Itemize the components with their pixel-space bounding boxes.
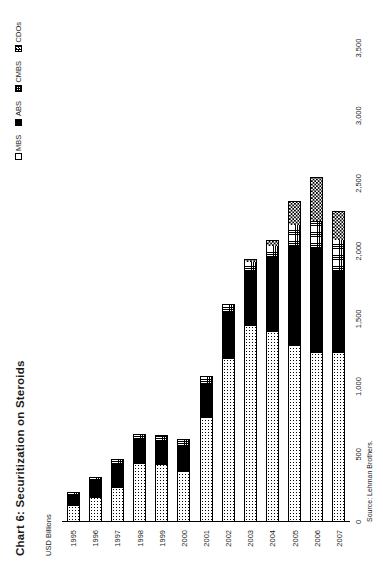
cmbs-swatch-icon <box>15 85 22 92</box>
bar-segment-cmbs[interactable] <box>266 246 279 257</box>
bar-segment-abs[interactable] <box>67 495 80 506</box>
bar-segment-mbs[interactable] <box>177 472 190 522</box>
bar-segment-cmbs[interactable] <box>310 221 323 248</box>
bar-segment-cdos[interactable] <box>266 240 279 246</box>
bar-segment-cdos[interactable] <box>244 259 257 262</box>
bar-segment-abs[interactable] <box>155 441 168 465</box>
bar-segment-cmbs[interactable] <box>155 435 168 441</box>
bar-segment-cmbs[interactable] <box>288 225 301 245</box>
bar-segment-abs[interactable] <box>222 312 235 359</box>
category-label: 2004 <box>268 530 277 547</box>
bar-segment-cmbs[interactable] <box>111 459 124 464</box>
value-tick-label: 0 <box>354 520 363 524</box>
value-tick-label: 3,000 <box>354 106 363 125</box>
bar-row[interactable] <box>177 439 190 522</box>
chart-figure: Chart 6: Securitization on Steroids USD … <box>0 0 383 584</box>
category-label: 2007 <box>334 530 343 547</box>
bar-segment-cmbs[interactable] <box>222 304 235 312</box>
bar-row[interactable] <box>332 211 345 522</box>
category-label: 2003 <box>246 530 255 547</box>
category-label: 1995 <box>69 530 78 547</box>
bar-segment-mbs[interactable] <box>200 418 213 522</box>
bar-segment-cmbs[interactable] <box>244 262 257 271</box>
category-label: 1996 <box>91 530 100 547</box>
category-label: 2000 <box>179 530 188 547</box>
bar-segment-mbs[interactable] <box>288 346 301 522</box>
bar-segment-mbs[interactable] <box>155 465 168 522</box>
bar-row[interactable] <box>111 459 124 522</box>
bar-row[interactable] <box>89 477 102 522</box>
bar-segment-mbs[interactable] <box>111 488 124 522</box>
bar-segment-cmbs[interactable] <box>332 240 345 271</box>
bar-segment-abs[interactable] <box>288 246 301 346</box>
category-label: 2005 <box>290 530 299 547</box>
legend-item-cdos[interactable]: CDOs <box>14 22 23 52</box>
bar-segment-abs[interactable] <box>177 446 190 472</box>
value-tick-label: 1,000 <box>354 377 363 396</box>
cdos-swatch-icon <box>15 45 22 52</box>
bar-segment-abs[interactable] <box>111 464 124 488</box>
bar-row[interactable] <box>67 492 80 522</box>
value-tick-label: 1,500 <box>354 309 363 328</box>
bar-row[interactable] <box>310 177 323 522</box>
bar-row[interactable] <box>244 259 257 522</box>
bar-segment-abs[interactable] <box>310 248 323 352</box>
bar-segment-mbs[interactable] <box>266 332 279 522</box>
category-label: 1998 <box>135 530 144 547</box>
legend-item-abs[interactable]: ABS <box>14 101 23 126</box>
bar-segment-cmbs[interactable] <box>67 492 80 494</box>
bar-segment-cdos[interactable] <box>332 211 345 241</box>
source-note: Source: Lehman Brothers. <box>366 440 373 522</box>
bar-segment-abs[interactable] <box>244 271 257 325</box>
bar-segment-abs[interactable] <box>200 384 213 418</box>
value-tick-label: 3,500 <box>354 39 363 58</box>
chart-legend: MBS ABS CMBS CDOs <box>14 22 23 160</box>
bar-segment-cdos[interactable] <box>310 177 323 222</box>
bar-row[interactable] <box>133 434 146 522</box>
legend-label-abs: ABS <box>14 101 23 116</box>
bar-segment-abs[interactable] <box>332 271 345 352</box>
bar-segment-cmbs[interactable] <box>177 439 190 446</box>
bar-row[interactable] <box>155 435 168 522</box>
mbs-swatch-icon <box>15 153 22 160</box>
bar-segment-cmbs[interactable] <box>89 477 102 480</box>
bar-segment-cmbs[interactable] <box>133 434 146 439</box>
page-title: Chart 6: Securitization on Steroids <box>14 361 26 557</box>
bar-segment-mbs[interactable] <box>89 498 102 522</box>
value-tick-label: 2,000 <box>354 242 363 261</box>
value-tick-label: 500 <box>354 448 363 461</box>
bar-segment-mbs[interactable] <box>310 353 323 522</box>
legend-item-mbs[interactable]: MBS <box>14 135 23 161</box>
bar-segment-mbs[interactable] <box>244 326 257 522</box>
legend-label-cmbs: CMBS <box>14 61 23 83</box>
bar-row[interactable] <box>222 304 235 522</box>
bar-row[interactable] <box>200 376 213 522</box>
bar-segment-mbs[interactable] <box>332 353 345 522</box>
legend-label-mbs: MBS <box>14 135 23 151</box>
abs-swatch-icon <box>15 119 22 126</box>
category-label: 2002 <box>224 530 233 547</box>
bar-segment-mbs[interactable] <box>67 506 80 522</box>
bar-segment-abs[interactable] <box>133 439 146 463</box>
category-label: 1999 <box>157 530 166 547</box>
plot-area: 05001,0001,5002,0002,5003,0003,500 19951… <box>62 48 350 522</box>
bar-segment-abs[interactable] <box>89 480 102 498</box>
bar-segment-abs[interactable] <box>266 257 279 333</box>
category-label: 1997 <box>113 530 122 547</box>
legend-item-cmbs[interactable]: CMBS <box>14 61 23 92</box>
bar-row[interactable] <box>266 240 279 522</box>
bar-segment-mbs[interactable] <box>133 464 146 522</box>
rotated-chart-figure: Chart 6: Securitization on Steroids USD … <box>0 0 383 584</box>
bar-segment-mbs[interactable] <box>222 360 235 523</box>
bar-segment-cmbs[interactable] <box>200 376 213 383</box>
legend-label-cdos: CDOs <box>14 22 23 42</box>
value-tick-label: 2,500 <box>354 174 363 193</box>
bar-row[interactable] <box>288 201 301 522</box>
value-axis-title: USD Billions <box>44 514 53 556</box>
category-label: 2006 <box>312 530 321 547</box>
bar-segment-cdos[interactable] <box>288 201 301 225</box>
category-label: 2001 <box>202 530 211 547</box>
